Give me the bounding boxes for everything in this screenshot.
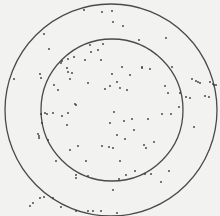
dot [123,120,125,122]
dot [38,137,40,139]
dot [61,115,63,117]
dot [77,145,79,147]
dot [47,139,49,141]
dot [48,48,50,50]
dot [195,80,197,82]
dot [161,113,163,115]
dot [193,126,195,128]
dot [60,62,62,64]
dot [179,92,181,94]
dot [167,92,169,94]
dot [197,81,199,83]
dot [40,113,42,115]
dot [125,174,127,176]
dot [40,77,42,79]
dot [53,84,55,86]
dot [57,89,59,91]
dot [111,10,113,12]
dot [109,122,111,124]
dot [90,51,92,53]
dot [150,173,152,175]
dot [67,112,69,114]
dot [38,135,40,137]
figure-canvas [0,0,220,216]
dot [75,177,77,179]
outer-circle [5,4,217,216]
dot [119,87,121,89]
dot [43,33,45,35]
dot [44,112,46,114]
dot [87,82,89,84]
dot [66,124,68,126]
dot [73,56,75,58]
dot [116,81,118,83]
dot [171,66,173,68]
dot [71,72,73,74]
dot [164,85,166,87]
dot [92,210,94,212]
dot [124,138,126,140]
dot [61,60,63,62]
dot [199,82,201,84]
dot [101,11,103,13]
dot [32,202,34,204]
dot [126,89,128,91]
dot [69,149,71,151]
dot [209,81,211,83]
dot [104,88,106,90]
dot [149,68,151,70]
dot [185,96,187,98]
dot [116,134,118,136]
dot [191,78,193,80]
dot [102,43,104,45]
dot [67,71,69,73]
dot [118,178,120,180]
scattered-dots [13,9,217,214]
dot [144,173,146,175]
dot [133,129,135,131]
dot [87,175,89,177]
dot [119,160,121,162]
dot [138,39,140,41]
dot [39,73,41,75]
dot [75,210,77,212]
dot [52,197,54,199]
dot [165,37,167,39]
dot [111,73,113,75]
dot [13,78,15,80]
dot [43,196,45,198]
dot [37,133,39,135]
dot [147,118,149,120]
dot [134,170,136,172]
dot [84,59,86,61]
dot [145,147,147,149]
dot [116,212,118,214]
dot [109,85,111,87]
dot [143,144,145,146]
dot [83,9,85,11]
dot [100,210,102,212]
dot [39,197,41,199]
dot [85,160,87,162]
dot [66,67,68,69]
dot [131,118,133,120]
dot [160,181,162,183]
dot [52,112,54,114]
dot [208,96,210,98]
dot [168,170,170,172]
dot [112,189,114,191]
concentric-circles-figure [0,0,220,216]
dot [178,106,180,108]
dot [122,25,124,27]
dot [60,206,62,208]
dot [129,74,131,76]
dot [87,210,89,212]
dot [141,67,143,69]
dot [46,113,48,115]
dot [215,84,217,86]
dot [189,97,191,99]
dot [112,21,114,23]
dot [204,95,206,97]
dot [153,141,155,143]
dot [55,160,57,162]
